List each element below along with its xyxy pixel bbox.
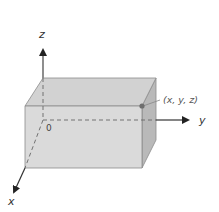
- box-top-face: [25, 78, 156, 106]
- z-axis-label: z: [38, 28, 45, 41]
- x-axis: [14, 168, 25, 192]
- y-axis-label: y: [198, 114, 206, 127]
- point-marker: [139, 103, 144, 108]
- coordinate-diagram: z y x 0 (x, y, z): [0, 0, 219, 212]
- point-label: (x, y, z): [163, 94, 198, 105]
- origin-label: 0: [46, 123, 52, 133]
- x-axis-label: x: [7, 195, 15, 208]
